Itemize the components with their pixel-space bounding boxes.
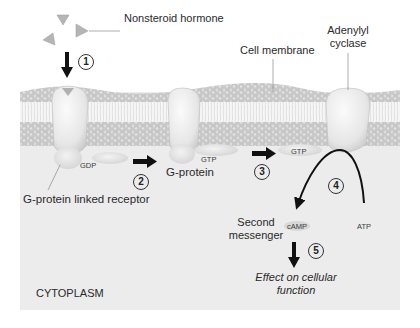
cytoplasm-label: CYTOPLASM (36, 287, 104, 299)
hormone-label: Nonsteroid hormone (124, 12, 224, 24)
atp-label: ATP (357, 222, 371, 231)
effect-label: Effect on cellular function (248, 271, 344, 297)
step-3-badge: 3 (254, 164, 270, 180)
nonsteroid-hormone-molecules (43, 15, 88, 45)
arrow-step-1 (61, 52, 73, 78)
effect-label-line1: Effect on cellular (248, 271, 344, 284)
cell-membrane-label: Cell membrane (240, 44, 315, 56)
gdp-label: GDP (80, 161, 96, 170)
step-5-badge: 5 (308, 243, 324, 259)
adenylyl-cyclase-label: Adenylyl cyclase (320, 24, 376, 50)
effect-label-line2: function (248, 284, 344, 297)
gtp-label-1: GTP (201, 155, 216, 164)
gdp-g-protein-subunit (92, 152, 128, 164)
adenylyl-cyclase-label-line1: Adenylyl (320, 24, 376, 37)
g-protein-label: G-protein (166, 166, 214, 178)
second-messenger-label: Second messenger (226, 216, 286, 242)
camp-label: cAMP (287, 222, 307, 231)
step-1-badge: 1 (78, 54, 94, 70)
adenylyl-cyclase-label-line2: cyclase (320, 37, 376, 50)
second-messenger-label-line2: messenger (226, 229, 286, 242)
step-2-badge: 2 (133, 174, 149, 190)
receptor-label: G-protein linked receptor (23, 193, 150, 205)
step-4-badge: 4 (328, 178, 344, 194)
gtp-label-2: GTP (291, 147, 306, 156)
second-messenger-label-line1: Second (226, 216, 286, 229)
